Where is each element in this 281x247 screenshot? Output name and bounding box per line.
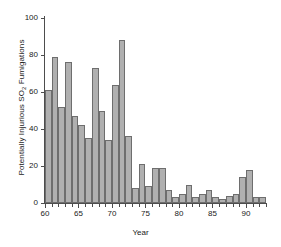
- x-tick-minor: [139, 204, 140, 207]
- bar: [45, 90, 52, 203]
- chart-figure: Potentially Injurious SO2 Fumigations Ye…: [0, 0, 281, 247]
- x-tick-minor: [99, 204, 100, 207]
- x-tick-minor: [152, 204, 153, 207]
- bar: [226, 196, 233, 203]
- bar: [152, 168, 159, 203]
- bar: [192, 197, 199, 203]
- bar: [212, 197, 219, 203]
- x-tick-minor: [92, 204, 93, 207]
- x-tick-minor: [172, 204, 173, 207]
- x-tick-label: 60: [41, 209, 50, 218]
- x-tick-minor: [266, 204, 267, 207]
- y-tick-label: 20: [29, 161, 38, 170]
- x-tick-minor: [65, 204, 66, 207]
- x-tick-major: [78, 204, 79, 208]
- x-tick-minor: [186, 204, 187, 207]
- bar: [246, 170, 253, 203]
- bar: [85, 138, 92, 203]
- x-tick-minor: [119, 204, 120, 207]
- y-axis-title-pre: Potentially Injurious SO: [17, 90, 26, 176]
- y-tick-label: 40: [29, 124, 38, 133]
- x-tick-major: [112, 204, 113, 208]
- x-axis-title: Year: [0, 228, 281, 237]
- y-axis-title-post: Fumigations: [17, 40, 26, 87]
- bar: [132, 188, 139, 203]
- bar: [186, 185, 193, 204]
- x-tick-label: 85: [208, 209, 217, 218]
- bar: [259, 197, 266, 203]
- bar: [206, 190, 213, 203]
- bar: [219, 199, 226, 203]
- x-tick-minor: [52, 204, 53, 207]
- x-tick-minor: [105, 204, 106, 207]
- bar: [199, 194, 206, 203]
- x-tick-label: 80: [174, 209, 183, 218]
- y-axis-title-subscript: 2: [20, 87, 26, 90]
- bar: [58, 107, 65, 203]
- x-tick-minor: [239, 204, 240, 207]
- bar: [92, 68, 99, 203]
- bar: [119, 40, 126, 203]
- y-tick: 80: [41, 55, 45, 56]
- bar: [52, 57, 59, 203]
- x-tick-major: [246, 204, 247, 208]
- x-tick-label: 90: [241, 209, 250, 218]
- bar: [112, 85, 119, 203]
- x-tick-label: 70: [108, 209, 117, 218]
- bar: [166, 190, 173, 203]
- bar: [125, 136, 132, 203]
- x-tick-minor: [226, 204, 227, 207]
- bar: [139, 164, 146, 203]
- x-tick-minor: [206, 204, 207, 207]
- bar: [159, 168, 166, 203]
- x-tick-minor: [259, 204, 260, 207]
- x-axis-line: [44, 203, 267, 204]
- x-tick-minor: [72, 204, 73, 207]
- bar: [179, 194, 186, 203]
- x-tick-minor: [159, 204, 160, 207]
- y-tick-label: 100: [25, 13, 38, 22]
- y-tick-label: 60: [29, 87, 38, 96]
- x-tick-minor: [192, 204, 193, 207]
- bar: [145, 186, 152, 203]
- x-tick-minor: [58, 204, 59, 207]
- bar: [99, 111, 106, 204]
- x-tick-minor: [199, 204, 200, 207]
- bar: [72, 116, 79, 203]
- bar: [105, 140, 112, 203]
- x-tick-label: 75: [141, 209, 150, 218]
- bar: [253, 197, 260, 203]
- y-tick-label: 0: [34, 198, 38, 207]
- y-tick: 100: [41, 18, 45, 19]
- y-axis-title: Potentially Injurious SO2 Fumigations: [17, 13, 26, 203]
- x-tick-major: [45, 204, 46, 208]
- x-tick-label: 65: [74, 209, 83, 218]
- x-tick-major: [179, 204, 180, 208]
- bar: [233, 194, 240, 203]
- x-tick-major: [212, 204, 213, 208]
- bar: [239, 177, 246, 203]
- x-tick-minor: [219, 204, 220, 207]
- x-tick-minor: [233, 204, 234, 207]
- x-tick-minor: [132, 204, 133, 207]
- y-tick-label: 80: [29, 50, 38, 59]
- plot-area: 020406080100 60657075808590: [45, 18, 266, 203]
- bar: [65, 62, 72, 203]
- x-tick-minor: [166, 204, 167, 207]
- bar: [172, 197, 179, 203]
- x-tick-minor: [253, 204, 254, 207]
- bar: [78, 125, 85, 203]
- x-tick-minor: [125, 204, 126, 207]
- x-tick-major: [145, 204, 146, 208]
- x-tick-minor: [85, 204, 86, 207]
